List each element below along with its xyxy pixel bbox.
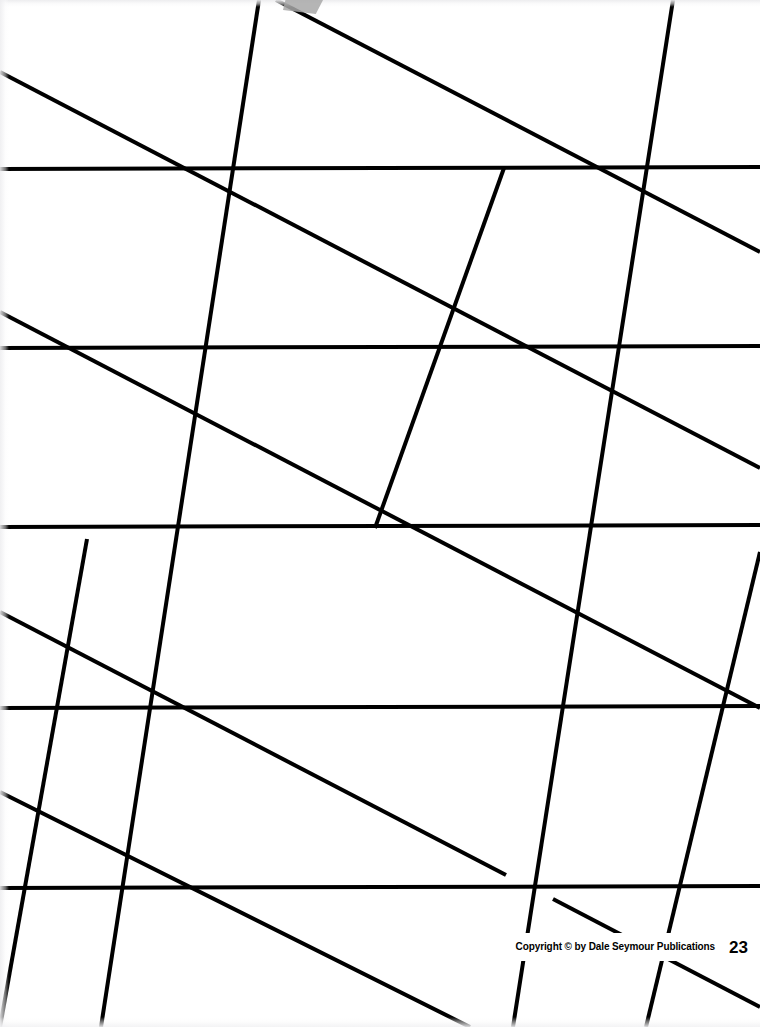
grid-line: [0, 612, 506, 875]
grid-line: [0, 886, 760, 888]
page-footer: Copyright © by Dale Seymour Publications…: [497, 933, 752, 961]
worksheet-page: Copyright © by Dale Seymour Publications…: [0, 0, 760, 1027]
grid-line: [0, 525, 760, 527]
grid-line: [101, 0, 259, 1027]
page-number: 23: [729, 939, 752, 956]
grid-line: [513, 0, 673, 1027]
grid-line: [276, 0, 760, 252]
grid-line-group: [0, 0, 760, 1027]
grid-line: [0, 706, 760, 708]
grid-line: [0, 72, 760, 468]
grid-line: [0, 539, 87, 1027]
grid-line: [0, 792, 470, 1027]
copyright-notice: Copyright © by Dale Seymour Publications: [516, 942, 716, 952]
grid-line: [0, 346, 760, 348]
triangular-grid: [0, 0, 760, 1027]
